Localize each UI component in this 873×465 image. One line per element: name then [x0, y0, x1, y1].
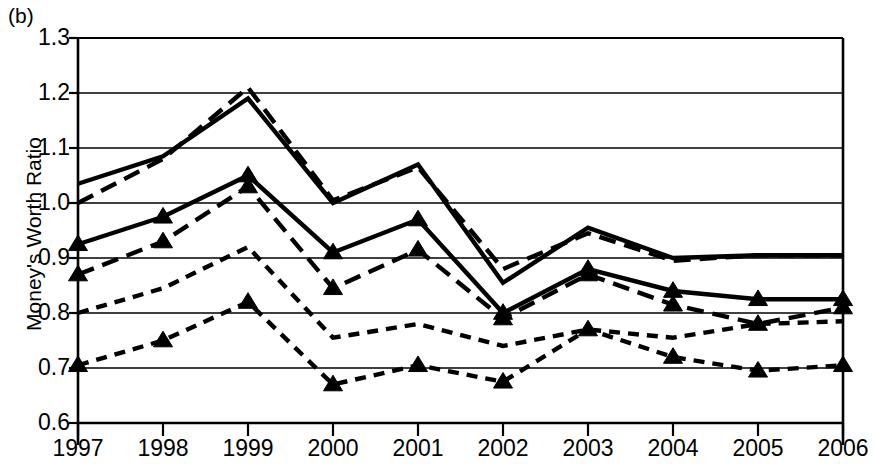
data-series-layer [69, 88, 853, 391]
axis-frame [69, 38, 843, 445]
data-point-marker-triangle [409, 356, 428, 372]
series-line [78, 302, 843, 385]
data-point-marker-triangle [409, 240, 428, 256]
grid-lines [78, 38, 843, 423]
series-line [78, 176, 843, 314]
data-point-marker-triangle [494, 372, 513, 388]
data-point-marker-triangle [409, 210, 428, 226]
series-line [78, 88, 843, 270]
series-series-4-longdash-triangle [69, 177, 853, 330]
data-point-marker-triangle [154, 232, 173, 248]
series-series-6-shortdash-triangle [69, 293, 853, 391]
series-series-3-solid-triangle [69, 166, 853, 319]
data-point-marker-triangle [239, 293, 258, 309]
series-series-2-longdash-upper [78, 88, 843, 270]
